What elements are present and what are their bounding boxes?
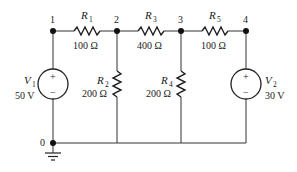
ground-icon bbox=[45, 153, 61, 160]
r1-sub: 1 bbox=[89, 15, 93, 24]
r2-value: 200 Ω bbox=[82, 88, 107, 99]
v2-sub: 2 bbox=[273, 80, 277, 89]
node-3-dot bbox=[178, 28, 184, 34]
v2-minus: − bbox=[243, 87, 249, 98]
node-3-label: 3 bbox=[178, 14, 183, 25]
v1-value: 50 V bbox=[15, 90, 35, 101]
resistor-r4 bbox=[177, 71, 185, 97]
v2-plus: + bbox=[243, 71, 249, 82]
node-2-dot bbox=[114, 28, 120, 34]
r1-value: 100 Ω bbox=[73, 40, 98, 51]
r4-value: 200 Ω bbox=[146, 88, 171, 99]
circuit-diagram: 1 2 3 4 0 R 1 100 Ω R 3 400 Ω R 5 100 Ω … bbox=[0, 0, 297, 172]
r2-name: R bbox=[96, 74, 104, 86]
r3-name: R bbox=[144, 9, 152, 21]
r3-value: 400 Ω bbox=[137, 40, 162, 51]
v2-name: V bbox=[265, 74, 273, 86]
v1-sub: 1 bbox=[32, 80, 36, 89]
r3-sub: 3 bbox=[153, 15, 157, 24]
r5-name: R bbox=[208, 9, 216, 21]
node-4-dot bbox=[243, 28, 249, 34]
v1-plus: + bbox=[50, 71, 56, 82]
r5-value: 100 Ω bbox=[201, 40, 226, 51]
resistor-r3 bbox=[138, 27, 164, 35]
r1-name: R bbox=[80, 9, 88, 21]
resistor-r5 bbox=[202, 27, 228, 35]
r5-sub: 5 bbox=[217, 15, 221, 24]
node-1-label: 1 bbox=[50, 14, 55, 25]
node-0-label: 0 bbox=[40, 137, 45, 148]
node-0-dot bbox=[50, 140, 56, 146]
node-4-label: 4 bbox=[243, 14, 248, 25]
v1-name: V bbox=[24, 74, 32, 86]
resistor-r2 bbox=[113, 71, 121, 97]
v1-minus: − bbox=[50, 87, 56, 98]
resistor-r1 bbox=[74, 27, 100, 35]
node-2-label: 2 bbox=[114, 14, 119, 25]
v2-value: 30 V bbox=[265, 90, 285, 101]
node-1-dot bbox=[50, 28, 56, 34]
r4-name: R bbox=[160, 74, 168, 86]
